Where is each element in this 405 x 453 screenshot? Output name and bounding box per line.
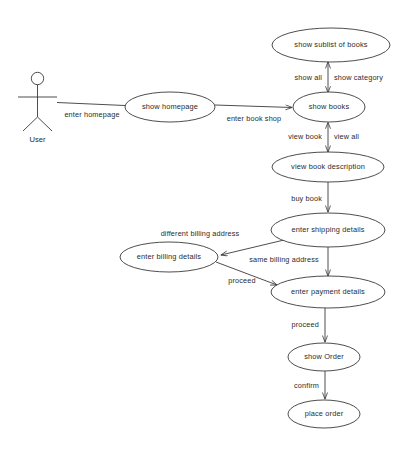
actor-leg-left (23, 117, 38, 131)
actor-label-user: User (29, 135, 46, 144)
usecase-view-book-description[interactable]: view book description (272, 152, 384, 182)
usecase-label-show-books: show books (309, 102, 350, 111)
edge-label-enter-book-shop: enter book shop (227, 114, 282, 123)
usecase-show-order[interactable]: show Order (288, 343, 360, 371)
edge-proceed-payment[interactable]: proceed (292, 308, 325, 342)
edge-label-proceed-billing: proceed (228, 276, 255, 285)
edge-label-buy-book: buy book (291, 194, 322, 203)
usecase-show-books[interactable]: show books (293, 92, 365, 122)
edge-enter-book-shop-line (215, 105, 292, 108)
usecase-place-order[interactable]: place order (288, 400, 360, 428)
usecase-label-show-sublist-of-books: show sublist of books (294, 40, 368, 49)
usecase-label-enter-billing-details: enter billing details (137, 252, 202, 261)
use-case-diagram-canvas: User enter homepage enter book shop show… (0, 0, 405, 453)
usecase-label-show-homepage: show homepage (142, 102, 198, 111)
usecase-enter-billing-details[interactable]: enter billing details (120, 242, 218, 272)
usecase-label-enter-shipping-details: enter shipping details (291, 225, 364, 234)
usecase-label-place-order: place order (305, 409, 344, 418)
edge-label-confirm: confirm (294, 381, 319, 390)
edge-enter-homepage[interactable]: enter homepage (57, 103, 125, 120)
actor-user[interactable]: User (18, 72, 57, 144)
edge-label-proceed-payment: proceed (292, 320, 319, 329)
edge-show-all-show-category[interactable]: show all show category (294, 62, 383, 92)
usecase-label-view-book-description: view book description (291, 162, 365, 171)
edge-proceed-billing[interactable]: proceed (216, 262, 277, 285)
edge-label-show-all: show all (294, 73, 322, 82)
usecase-label-show-order: show Order (304, 352, 344, 361)
edge-enter-book-shop[interactable]: enter book shop (215, 105, 292, 123)
actor-head-icon (31, 72, 43, 84)
edge-label-view-book: view book (288, 132, 322, 141)
edge-label-show-category: show category (334, 73, 383, 82)
edge-view-book-view-all[interactable]: view book view all (288, 123, 359, 152)
use-case-diagram: User enter homepage enter book shop show… (0, 0, 405, 453)
edge-different-billing-address-line (221, 240, 284, 255)
actor-leg-right (38, 117, 53, 131)
usecase-enter-payment-details[interactable]: enter payment details (271, 276, 385, 308)
edge-enter-homepage-line (57, 103, 125, 106)
usecase-label-enter-payment-details: enter payment details (291, 287, 365, 296)
edge-label-same-billing-address: same billing address (249, 255, 319, 264)
usecase-enter-shipping-details[interactable]: enter shipping details (271, 213, 385, 247)
edge-label-view-all: view all (334, 132, 359, 141)
edge-label-enter-homepage: enter homepage (64, 110, 119, 119)
edge-same-billing-address[interactable]: same billing address (249, 247, 328, 276)
edge-confirm[interactable]: confirm (294, 371, 325, 399)
usecase-show-homepage[interactable]: show homepage (125, 92, 215, 122)
edge-buy-book[interactable]: buy book (291, 182, 328, 212)
usecase-show-sublist-of-books[interactable]: show sublist of books (272, 28, 390, 62)
edge-label-different-billing-address: different billing address (161, 229, 240, 238)
